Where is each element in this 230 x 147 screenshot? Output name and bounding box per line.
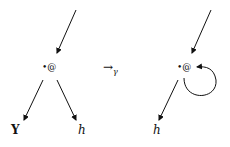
left-child-Y: Y (11, 124, 20, 136)
left-apply-node: •@ (42, 63, 56, 72)
right-child-h: h (153, 124, 161, 136)
right-incoming-edge (192, 10, 211, 53)
right-apply-node: •@ (177, 63, 191, 72)
left-edge-to-h (57, 80, 76, 120)
arrow-subscript: γ (113, 67, 118, 76)
left-edge-to-Y (24, 80, 43, 120)
left-incoming-edge (57, 10, 76, 53)
right-edge-to-h (159, 80, 178, 120)
arrow-symbol: → (103, 60, 113, 74)
left-child-h: h (78, 124, 86, 136)
transition-arrow: →γ (103, 61, 118, 76)
